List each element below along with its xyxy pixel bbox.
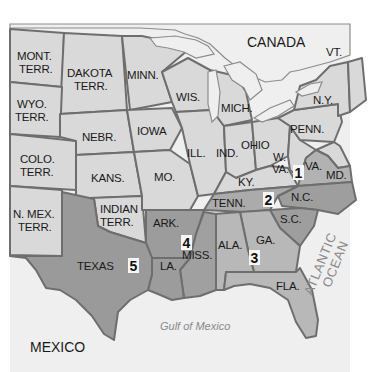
dakota-terr-label: DAKOTA bbox=[67, 67, 113, 79]
district-marker-1: 1 bbox=[293, 165, 304, 181]
district-marker-3: 3 bbox=[249, 250, 260, 266]
district-number-5: 5 bbox=[130, 258, 138, 274]
district-marker-5: 5 bbox=[128, 258, 139, 274]
mich-label: MICH. bbox=[221, 102, 253, 114]
iowa-label: IOWA bbox=[137, 125, 167, 137]
mexico-label: MEXICO bbox=[30, 339, 85, 355]
ill-label: ILL. bbox=[187, 147, 205, 159]
fla-label: FLA. bbox=[276, 280, 300, 292]
va-label: VA. bbox=[305, 160, 322, 172]
kans-label: KANS. bbox=[91, 172, 125, 184]
penn-label: PENN. bbox=[290, 123, 324, 135]
ind-label: IND. bbox=[216, 147, 238, 159]
wis-label: WIS. bbox=[176, 91, 200, 103]
tenn-label: TENN. bbox=[212, 197, 246, 209]
indian-terr-label: INDIAN bbox=[100, 203, 138, 215]
sc-label: S.C. bbox=[280, 213, 302, 225]
ark-label: ARK. bbox=[153, 217, 179, 229]
ga-label: GA. bbox=[256, 234, 275, 246]
nmex-terr-label: N. MEX. bbox=[13, 208, 54, 220]
ohio-label: OHIO bbox=[241, 139, 270, 151]
district-number-3: 3 bbox=[251, 250, 259, 266]
wva-label-2: VA. bbox=[272, 163, 289, 175]
minn-label: MINN. bbox=[127, 69, 159, 81]
md-label: MD. bbox=[326, 169, 346, 181]
reconstruction-military-districts-map: MONT. TERR. DAKOTA TERR. WYO. TERR. COLO… bbox=[0, 0, 374, 372]
canada-label: CANADA bbox=[247, 34, 306, 50]
district-number-2: 2 bbox=[265, 192, 273, 208]
mont-terr-label-2: TERR. bbox=[19, 63, 53, 75]
indian-terr-label-2: TERR. bbox=[100, 216, 134, 228]
gulf-of-mexico-label: Gulf of Mexico bbox=[160, 320, 230, 332]
texas-label: TEXAS bbox=[77, 260, 114, 272]
district-marker-2: 2 bbox=[263, 192, 274, 208]
nc-label: N.C. bbox=[291, 191, 313, 203]
nebr-label: NEBR. bbox=[82, 131, 116, 143]
dakota-terr-label-2: TERR. bbox=[74, 80, 108, 92]
ny-label: N.Y. bbox=[313, 94, 333, 106]
district-number-4: 4 bbox=[183, 235, 191, 251]
mont-terr-label: MONT. bbox=[17, 50, 52, 62]
district-marker-4: 4 bbox=[181, 235, 192, 251]
wyo-terr-label: WYO. bbox=[17, 98, 47, 110]
wyo-terr-label-2: TERR. bbox=[15, 111, 49, 123]
wva-label: W. bbox=[273, 151, 286, 163]
nmex-terr-label-2: TERR. bbox=[18, 221, 52, 233]
ala-label: ALA. bbox=[218, 239, 242, 251]
ky-label: KY. bbox=[238, 176, 254, 188]
mo-label: MO. bbox=[154, 171, 175, 183]
colo-terr-label-2: TERR. bbox=[20, 166, 54, 178]
district-number-1: 1 bbox=[295, 165, 303, 181]
vt-label: VT. bbox=[326, 46, 342, 58]
colo-terr-label: COLO. bbox=[20, 153, 55, 165]
la-label: LA. bbox=[160, 260, 177, 272]
